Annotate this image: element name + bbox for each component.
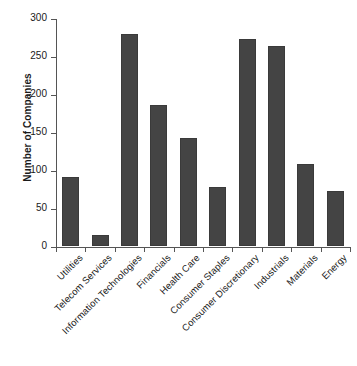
- y-tick: 150: [51, 133, 56, 134]
- y-tick-label: 100: [30, 164, 47, 175]
- bar-utilities: [62, 177, 79, 246]
- x-axis-label: Energy: [320, 252, 349, 281]
- x-tick: [262, 247, 263, 252]
- bar-telecom-services: [92, 235, 109, 246]
- y-tick-label: 250: [30, 50, 47, 61]
- x-axis-label: Materials: [284, 252, 320, 288]
- x-tick: [85, 247, 86, 252]
- x-tick: [232, 247, 233, 252]
- y-tick: 100: [51, 171, 56, 172]
- y-tick-label: 150: [30, 126, 47, 137]
- y-tick-label: 0: [41, 240, 47, 251]
- y-tick-label: 200: [30, 88, 47, 99]
- bar-financials: [150, 105, 167, 246]
- x-tick: [115, 247, 116, 252]
- bar-health-care: [180, 138, 197, 246]
- x-tick: [321, 247, 322, 252]
- bar-industrials: [268, 46, 285, 246]
- bar-chart: Number of Companies 050100150200250300 U…: [0, 0, 357, 366]
- y-tick-label: 50: [36, 202, 47, 213]
- bar-information-technologies: [121, 34, 138, 246]
- x-tick: [56, 247, 57, 252]
- bar-energy: [327, 191, 344, 246]
- y-tick-label: 300: [30, 12, 47, 23]
- x-tick: [203, 247, 204, 252]
- bar-materials: [297, 164, 314, 246]
- bar-consumer-discretionary: [239, 39, 256, 246]
- y-tick: 200: [51, 95, 56, 96]
- x-tick: [350, 247, 351, 252]
- bar-consumer-staples: [209, 187, 226, 246]
- y-tick: 300: [51, 19, 56, 20]
- x-tick: [291, 247, 292, 252]
- y-axis-line: [56, 19, 57, 248]
- x-tick: [144, 247, 145, 252]
- y-tick: 250: [51, 57, 56, 58]
- y-tick: 50: [51, 209, 56, 210]
- x-tick: [174, 247, 175, 252]
- plot-area: 050100150200250300: [56, 19, 350, 247]
